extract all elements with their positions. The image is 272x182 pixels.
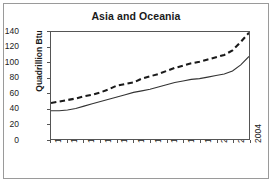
y-tick-label: 60	[0, 89, 19, 98]
plot-lines	[51, 32, 249, 139]
chart-figure: Asia and Oceania Quadrillion Btu 1401201…	[0, 0, 272, 182]
x-tick-mark	[217, 140, 218, 143]
series-line-solid	[51, 56, 249, 110]
series-line-dashed	[51, 33, 249, 103]
x-tick-mark	[150, 140, 151, 143]
x-tick-mark	[100, 140, 101, 143]
x-tick-label: 2004	[254, 124, 263, 143]
y-tick-label: 100	[0, 58, 19, 67]
x-tick-mark	[117, 140, 118, 143]
y-axis-title: Quadrillion Btu	[34, 16, 44, 106]
y-tick-label: 20	[0, 120, 19, 129]
y-tick-label: 40	[0, 104, 19, 113]
x-tick-mark	[183, 140, 184, 143]
x-tick-mark	[133, 140, 134, 143]
x-tick-mark	[167, 140, 168, 143]
y-tick-label: 120	[0, 42, 19, 51]
x-tick-mark	[250, 140, 251, 143]
x-tick-mark	[83, 140, 84, 143]
y-tick-label: 80	[0, 73, 19, 82]
plot-area	[50, 31, 250, 140]
x-tick-mark	[200, 140, 201, 143]
x-tick-mark	[50, 140, 51, 143]
y-tick-label: 140	[0, 27, 19, 36]
y-tick-label: 0	[0, 136, 19, 145]
x-tick-mark	[233, 140, 234, 143]
x-tick-mark	[67, 140, 68, 143]
